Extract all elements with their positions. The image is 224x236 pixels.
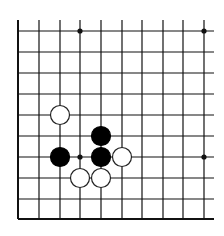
star-point (201, 28, 206, 33)
go-board-canvas (0, 0, 224, 236)
black-stone (92, 127, 111, 146)
black-stone (92, 148, 111, 167)
white-stone (71, 169, 90, 188)
star-point (201, 154, 206, 159)
white-stone (51, 106, 70, 125)
black-stone (51, 148, 70, 167)
white-stone (92, 169, 111, 188)
white-stone (113, 148, 132, 167)
grid-lines (18, 20, 214, 219)
star-point (77, 154, 82, 159)
star-point (77, 28, 82, 33)
go-board (0, 0, 224, 236)
stones (51, 106, 132, 188)
